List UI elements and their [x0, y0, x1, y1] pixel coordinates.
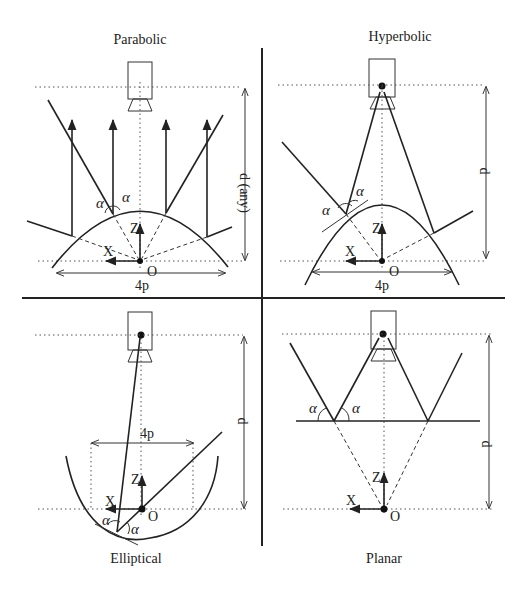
distance-label: d: [479, 441, 494, 448]
panel-parabolic: Parabolic α α Z X: [27, 32, 252, 293]
origin-label: O: [147, 264, 157, 279]
width-label: 4p: [140, 426, 154, 441]
panel-elliptical: 4p α α Z X O d Elliptical: [35, 312, 250, 566]
angle-label: α: [352, 400, 361, 416]
width-label: 4p: [375, 278, 389, 293]
angle-label: α: [102, 512, 111, 528]
panel-title: Elliptical: [110, 551, 161, 566]
catadioptric-diagram: Parabolic α α Z X: [0, 0, 521, 595]
axis-z-label: Z: [130, 221, 139, 236]
panel-hyperbolic: Hyperbolic α α Z X O d 4p: [278, 29, 492, 293]
axis-z-label: Z: [372, 221, 381, 236]
panel-planar: α α Z X O d Planar: [282, 311, 494, 566]
axis-x-label: X: [105, 494, 115, 509]
angle-label: α: [131, 521, 140, 537]
angle-label: α: [356, 183, 365, 199]
distance-label: d (any): [236, 173, 252, 213]
angle-label: α: [122, 189, 131, 205]
distance-label: d: [235, 418, 250, 425]
angle-label: α: [322, 202, 331, 218]
axis-x-label: X: [346, 493, 356, 508]
axis-x-label: X: [345, 244, 355, 259]
angle-label: α: [309, 400, 318, 416]
distance-label: d: [477, 168, 492, 175]
angle-label: α: [96, 195, 105, 211]
panel-title: Parabolic: [114, 32, 167, 47]
width-label: 4p: [135, 278, 149, 293]
origin-label: O: [148, 509, 158, 524]
origin-label: O: [390, 509, 400, 524]
axis-z-label: Z: [131, 472, 140, 487]
panel-title: Planar: [366, 551, 402, 566]
panel-title: Hyperbolic: [369, 29, 432, 44]
axis-x-label: X: [103, 244, 113, 259]
axis-z-label: Z: [372, 470, 381, 485]
